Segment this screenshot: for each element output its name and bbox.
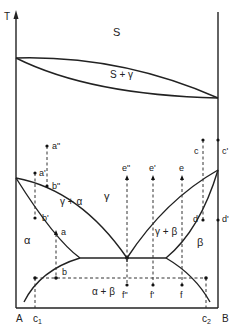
point-label-c-prime: c' bbox=[222, 146, 229, 156]
gamma-beta-upper-boundary bbox=[127, 170, 218, 258]
point-label-b: b bbox=[62, 267, 67, 277]
point-label-a2: a" bbox=[52, 141, 60, 151]
point-label-f: f bbox=[180, 290, 183, 300]
beta-solvus bbox=[166, 258, 210, 302]
label-beta: β bbox=[197, 236, 203, 248]
point-label-b2: b" bbox=[52, 181, 60, 191]
alpha-solvus bbox=[24, 258, 80, 302]
point-label-f2: f" bbox=[122, 290, 128, 300]
point-label-f1: f' bbox=[150, 290, 155, 300]
point-label-b1: b' bbox=[42, 213, 49, 223]
point-label-d-prime: d' bbox=[222, 214, 229, 224]
label-gamma: γ bbox=[104, 190, 110, 202]
label-gamma-alpha: γ + α bbox=[60, 196, 82, 207]
label-alpha: α bbox=[24, 234, 31, 246]
label-gamma-beta: γ + β bbox=[155, 226, 177, 237]
point-label-c: c bbox=[194, 146, 199, 156]
point-label-d: d bbox=[193, 214, 198, 224]
point-label-e1: e' bbox=[149, 163, 156, 173]
point-label-a1: a' bbox=[39, 168, 46, 178]
composition-c1: c1 bbox=[33, 313, 42, 325]
label-liquid-gamma: S + γ bbox=[110, 69, 133, 80]
composition-c2: c2 bbox=[202, 313, 211, 325]
label-alpha-beta: α + β bbox=[92, 286, 115, 297]
phase-diagram: T S S + γ γ γ + α γ + β α β α + β a" a' … bbox=[0, 0, 235, 329]
axis-arrow-icon bbox=[14, 10, 19, 19]
axis-label-T: T bbox=[4, 11, 10, 22]
gamma-alpha-upper-boundary bbox=[16, 178, 127, 258]
component-B: B bbox=[222, 313, 229, 324]
point-label-e2: e" bbox=[122, 163, 130, 173]
component-A: A bbox=[16, 313, 23, 324]
label-liquid: S bbox=[113, 26, 120, 38]
point-label-a: a bbox=[61, 227, 66, 237]
point-label-e: e bbox=[179, 163, 184, 173]
gamma-beta-lower-boundary bbox=[166, 170, 218, 258]
